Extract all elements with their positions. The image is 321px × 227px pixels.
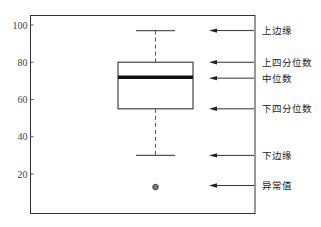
annotation-label: 上边缘 bbox=[262, 25, 292, 36]
annotation-arrow-head bbox=[209, 153, 217, 157]
y-tick-label: 100 bbox=[13, 20, 28, 31]
annotation-arrow-head bbox=[209, 60, 217, 64]
plot-frame bbox=[31, 16, 256, 214]
boxplot-chart: 20406080100 上边缘上四分位数中位数下四分位数下边缘异常值 bbox=[0, 0, 321, 227]
annotation-label: 下边缘 bbox=[262, 150, 292, 161]
annotation-arrow-head bbox=[209, 183, 217, 187]
annotation-arrow-head bbox=[209, 28, 217, 32]
boxplot-figure: 20406080100 上边缘上四分位数中位数下四分位数下边缘异常值 bbox=[0, 0, 321, 227]
outlier-point bbox=[153, 184, 159, 190]
y-tick-label: 20 bbox=[18, 169, 28, 180]
annotation-arrow-head bbox=[209, 76, 217, 80]
annotation-label: 中位数 bbox=[262, 73, 292, 84]
annotation-arrow-head bbox=[209, 107, 217, 111]
y-tick-label: 60 bbox=[18, 94, 28, 105]
annotation-label: 下四分位数 bbox=[262, 103, 312, 114]
y-tick-label: 40 bbox=[18, 131, 28, 142]
annotation-label: 上四分位数 bbox=[262, 57, 312, 68]
y-tick-label: 80 bbox=[18, 57, 28, 68]
interquartile-box bbox=[118, 62, 193, 109]
annotation-label: 异常值 bbox=[262, 180, 292, 191]
